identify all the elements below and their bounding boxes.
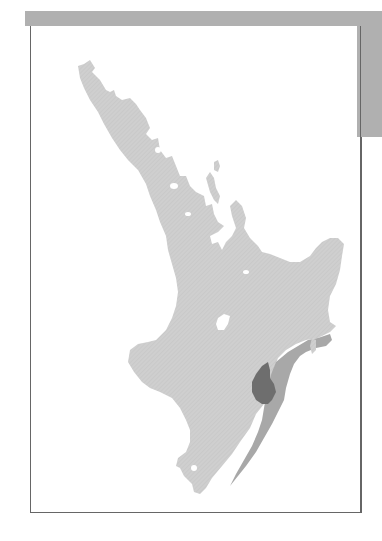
wellington-harbour bbox=[191, 465, 197, 471]
lake-rotorua bbox=[243, 270, 249, 274]
north-island-map bbox=[0, 0, 382, 541]
harbour-inlet-3 bbox=[155, 147, 161, 153]
land-mass bbox=[78, 60, 344, 494]
harbour-inlet bbox=[185, 212, 191, 216]
harbour-inlet-2 bbox=[170, 183, 178, 189]
coromandel-peninsula bbox=[206, 172, 220, 204]
great-barrier-island bbox=[214, 160, 220, 172]
